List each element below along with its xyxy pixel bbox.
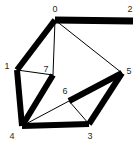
node-label-2: 2 [127, 5, 132, 14]
graph-edge-0-2 [55, 20, 133, 21]
node-label-4: 4 [9, 132, 14, 141]
graph-edge-1-4 [17, 70, 22, 126]
node-label-5: 5 [126, 67, 131, 76]
graph-edge-4-3 [22, 124, 89, 126]
graph-edge-0-7 [53, 20, 55, 75]
edge-layer [17, 20, 133, 126]
graph-edge-0-1 [17, 20, 55, 70]
node-label-7: 7 [43, 65, 48, 74]
graph-edge-0-5 [55, 20, 122, 73]
graph-canvas [0, 0, 138, 145]
graph-diagram: 01234567 [0, 0, 138, 145]
node-label-3: 3 [87, 132, 92, 141]
node-label-6: 6 [62, 87, 67, 96]
node-label-1: 1 [4, 62, 9, 71]
graph-edge-4-7 [22, 75, 53, 126]
graph-edge-6-3 [69, 101, 89, 124]
node-label-0: 0 [52, 5, 57, 14]
